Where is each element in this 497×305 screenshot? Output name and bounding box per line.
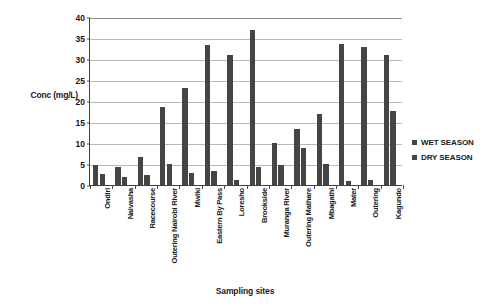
bar bbox=[301, 148, 306, 185]
bar bbox=[250, 30, 255, 185]
x-axis-title: Sampling sites bbox=[89, 286, 401, 296]
bar bbox=[384, 55, 389, 185]
bar bbox=[256, 167, 261, 185]
plot-area: 0510152025303540 bbox=[89, 18, 402, 186]
bar-group bbox=[291, 18, 313, 185]
bar bbox=[317, 114, 322, 185]
legend-item[interactable]: WET SEASON bbox=[412, 138, 496, 147]
y-axis-title: Conc (mg/L) bbox=[8, 90, 78, 100]
bar bbox=[100, 174, 105, 185]
bar bbox=[368, 180, 373, 185]
bar bbox=[272, 143, 277, 185]
x-axis-category-label: Brookside bbox=[260, 188, 269, 223]
bar-group bbox=[112, 18, 134, 185]
bar bbox=[122, 177, 127, 185]
x-axis-tick-mark bbox=[403, 185, 404, 189]
bar bbox=[211, 171, 216, 185]
bar bbox=[182, 88, 187, 185]
bar-group bbox=[314, 18, 336, 185]
x-axis-category-label: Mater bbox=[349, 188, 358, 207]
chart-legend: WET SEASONDRY SEASON bbox=[412, 138, 496, 168]
bar-group bbox=[135, 18, 157, 185]
bar bbox=[160, 107, 165, 185]
bar bbox=[294, 129, 299, 185]
bar-group bbox=[381, 18, 403, 185]
bar-group bbox=[336, 18, 358, 185]
y-axis-tick-label: 30 bbox=[76, 55, 85, 65]
bar bbox=[339, 44, 344, 185]
bar bbox=[205, 45, 210, 185]
x-axis-category-label: Outering Nairobi River bbox=[170, 188, 179, 264]
x-axis-category-label: Eastern By Pass bbox=[215, 188, 224, 244]
bar bbox=[115, 167, 120, 185]
y-axis-tick-label: 20 bbox=[76, 97, 85, 107]
legend-swatch-icon bbox=[412, 140, 417, 145]
bar bbox=[167, 164, 172, 185]
bar bbox=[323, 164, 328, 185]
y-axis-tick-label: 10 bbox=[76, 139, 85, 149]
bar bbox=[346, 181, 351, 185]
x-axis-category-label: Outering Mathare bbox=[304, 188, 313, 247]
bar-group bbox=[202, 18, 224, 185]
bar bbox=[227, 55, 232, 185]
y-axis-tick-label: 0 bbox=[80, 181, 85, 191]
x-axis-category-label: Mbagathi bbox=[327, 188, 336, 219]
y-axis-tick-label: 15 bbox=[76, 118, 85, 128]
legend-item[interactable]: DRY SEASON bbox=[412, 153, 496, 162]
x-axis-category-label: Mwiki bbox=[193, 188, 202, 207]
y-axis-tick-label: 5 bbox=[80, 160, 85, 170]
bar bbox=[189, 173, 194, 185]
x-axis-category-label: Ondiri bbox=[103, 188, 112, 209]
legend-label: DRY SEASON bbox=[421, 153, 472, 162]
x-axis-category-label: Muranga River bbox=[282, 188, 291, 238]
bar-group bbox=[157, 18, 179, 185]
bars-layer bbox=[90, 18, 402, 185]
bar-group bbox=[247, 18, 269, 185]
bar bbox=[138, 157, 143, 185]
bar-group bbox=[179, 18, 201, 185]
x-axis-category-label: Kagundo bbox=[394, 188, 403, 219]
bar-group bbox=[269, 18, 291, 185]
bar bbox=[93, 165, 98, 185]
bar-group bbox=[90, 18, 112, 185]
x-axis-category-label: Loresho bbox=[237, 188, 246, 216]
x-axis-category-label: Racecourse bbox=[148, 188, 157, 229]
x-axis-category-label: Outering bbox=[371, 188, 380, 218]
bar-chart-figure: Conc (mg/L) 0510152025303540 OndiriNaiva… bbox=[0, 0, 497, 305]
legend-label: WET SEASON bbox=[421, 138, 474, 147]
y-axis-tick-label: 40 bbox=[76, 13, 85, 23]
bar-group bbox=[358, 18, 380, 185]
bar bbox=[390, 111, 395, 185]
bar bbox=[278, 165, 283, 185]
bar-group bbox=[224, 18, 246, 185]
legend-swatch-icon bbox=[412, 155, 417, 160]
y-axis-tick-label: 25 bbox=[76, 76, 85, 86]
x-axis-category-labels: OndiriNaivashaRacecourseOutering Nairobi… bbox=[89, 188, 401, 280]
bar bbox=[144, 175, 149, 185]
y-axis-tick-label: 35 bbox=[76, 34, 85, 44]
x-axis-category-label: Naivasha bbox=[126, 188, 135, 219]
bar bbox=[361, 47, 366, 185]
bar bbox=[234, 180, 239, 185]
